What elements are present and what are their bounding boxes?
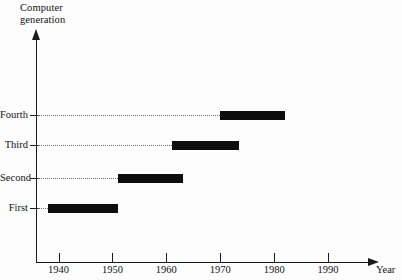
y-axis-tick bbox=[30, 178, 38, 179]
leader-line bbox=[38, 145, 172, 146]
timeline-bar bbox=[118, 174, 183, 183]
timeline-bar bbox=[48, 204, 118, 213]
x-axis-tick bbox=[220, 253, 221, 262]
leader-line bbox=[38, 178, 118, 179]
x-axis-tick bbox=[166, 253, 167, 262]
x-axis-tick-label: 1960 bbox=[156, 264, 177, 276]
x-axis-tick bbox=[112, 253, 113, 262]
leader-line bbox=[38, 208, 48, 209]
x-axis-tick bbox=[274, 253, 275, 262]
chart-container: Computer generation FourthThirdSecondFir… bbox=[0, 0, 402, 280]
y-axis-line bbox=[36, 38, 37, 262]
y-axis-category-label-text: Second bbox=[0, 172, 28, 183]
timeline-bar bbox=[172, 141, 239, 150]
x-axis-tick-label: 1940 bbox=[48, 264, 69, 276]
y-axis-category-label-text: First bbox=[0, 202, 28, 213]
x-axis-tick-label: 1990 bbox=[318, 264, 339, 276]
x-axis-label: Year bbox=[376, 264, 395, 276]
x-axis-tick-label: 1970 bbox=[210, 264, 231, 276]
x-axis-tick-label: 1980 bbox=[264, 264, 285, 276]
y-axis-tick bbox=[30, 208, 38, 209]
y-axis-arrowhead-icon bbox=[32, 29, 40, 40]
y-axis-title: Computer generation bbox=[20, 2, 65, 26]
y-axis-category-label-text: Fourth bbox=[0, 109, 28, 120]
y-axis-tick bbox=[30, 145, 38, 146]
x-axis-tick bbox=[59, 253, 60, 262]
x-axis-tick-label: 1950 bbox=[102, 264, 123, 276]
x-axis-tick bbox=[328, 253, 329, 262]
y-axis-category-label-text: Third bbox=[0, 139, 28, 150]
y-axis-tick bbox=[30, 115, 38, 116]
timeline-bar bbox=[220, 111, 285, 120]
x-axis-line bbox=[36, 262, 372, 263]
leader-line bbox=[38, 115, 220, 116]
